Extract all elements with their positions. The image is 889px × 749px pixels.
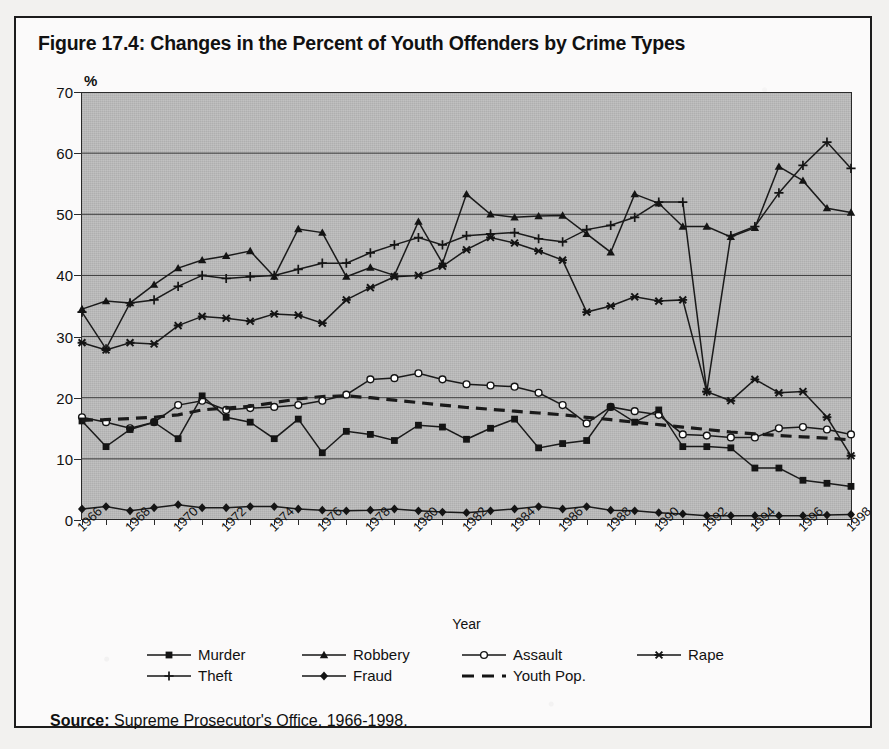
y-axis-tick-mark xyxy=(74,459,81,460)
y-axis-tick-label: 40 xyxy=(56,267,73,284)
y-axis-tick-label: 0 xyxy=(65,512,73,529)
y-axis-tick-label: 30 xyxy=(56,328,73,345)
legend-item-label: Youth Pop. xyxy=(513,667,586,684)
x-axis-tick-mark xyxy=(298,520,299,525)
x-axis-tick-mark xyxy=(731,520,732,525)
legend-item-assault[interactable]: Assault xyxy=(461,646,636,663)
diamond-icon xyxy=(301,669,347,683)
legend-item-label: Rape xyxy=(688,646,724,663)
x-axis-tick-mark xyxy=(635,520,636,525)
y-axis-tick-mark xyxy=(74,337,81,338)
x-axis-tick-mark xyxy=(202,520,203,525)
chart-legend: MurderRobberyAssaultRapeTheftFraudYouth … xyxy=(146,646,806,684)
y-axis-tick-label: 50 xyxy=(56,206,73,223)
x-axis-tick-mark xyxy=(394,520,395,525)
y-axis-unit-label: % xyxy=(84,72,97,89)
x-axis-tick-mark xyxy=(154,520,155,525)
y-axis-tick-mark xyxy=(74,92,81,93)
legend-item-fraud[interactable]: Fraud xyxy=(301,667,461,684)
x-axis-tick-mark xyxy=(779,520,780,525)
dashed-line-icon xyxy=(461,669,507,683)
legend-item-robbery[interactable]: Robbery xyxy=(301,646,461,663)
series-youth-pop xyxy=(82,396,851,440)
x-axis-tick-mark xyxy=(250,520,251,525)
series-rape xyxy=(78,234,856,459)
plus-icon xyxy=(146,669,192,683)
legend-item-label: Theft xyxy=(198,667,232,684)
legend-item-label: Assault xyxy=(513,646,562,663)
legend-item-label: Fraud xyxy=(353,667,392,684)
legend-item-theft[interactable]: Theft xyxy=(146,667,301,684)
y-axis-tick-mark xyxy=(74,153,81,154)
x-axis-tick-mark xyxy=(106,520,107,525)
y-axis-tick-mark xyxy=(74,275,81,276)
legend-item-rape[interactable]: Rape xyxy=(636,646,776,663)
y-axis-tick-label: 70 xyxy=(56,84,73,101)
series-assault xyxy=(79,370,855,441)
star-icon xyxy=(636,648,682,662)
x-axis-tick-mark xyxy=(539,520,540,525)
legend-item-label: Robbery xyxy=(353,646,410,663)
x-axis-tick-mark xyxy=(683,520,684,525)
x-axis-tick-mark xyxy=(346,520,347,525)
figure-frame: Figure 17.4: Changes in the Percent of Y… xyxy=(14,16,872,728)
y-axis-tick-mark xyxy=(74,398,81,399)
x-axis-tick-mark xyxy=(587,520,588,525)
legend-item-murder[interactable]: Murder xyxy=(146,646,301,663)
legend-item-youth-pop[interactable]: Youth Pop. xyxy=(461,667,636,684)
y-axis-tick-mark xyxy=(74,214,81,215)
y-axis-tick-label: 60 xyxy=(56,145,73,162)
source-text: Supreme Prosecutor's Office, 1966-1998. xyxy=(110,712,408,729)
plot-wrapper: 010203040506070 196619681970197219741976… xyxy=(81,92,852,520)
y-axis-tick-label: 20 xyxy=(56,389,73,406)
x-axis-tick-mark xyxy=(827,520,828,525)
open-circle-icon xyxy=(461,648,507,662)
figure-title: Figure 17.4: Changes in the Percent of Y… xyxy=(38,32,854,55)
y-axis-tick-label: 10 xyxy=(56,450,73,467)
figure-page: Figure 17.4: Changes in the Percent of Y… xyxy=(0,0,889,749)
square-icon xyxy=(146,648,192,662)
series-theft xyxy=(77,138,855,397)
x-axis-title: Year xyxy=(81,616,852,632)
x-axis-tick-mark xyxy=(491,520,492,525)
triangle-icon xyxy=(301,648,347,662)
source-label: Source: xyxy=(50,712,110,729)
source-note: Source: Supreme Prosecutor's Office, 196… xyxy=(50,712,408,730)
x-axis-tick-mark xyxy=(442,520,443,525)
data-lines xyxy=(81,92,852,520)
legend-item-label: Murder xyxy=(198,646,246,663)
